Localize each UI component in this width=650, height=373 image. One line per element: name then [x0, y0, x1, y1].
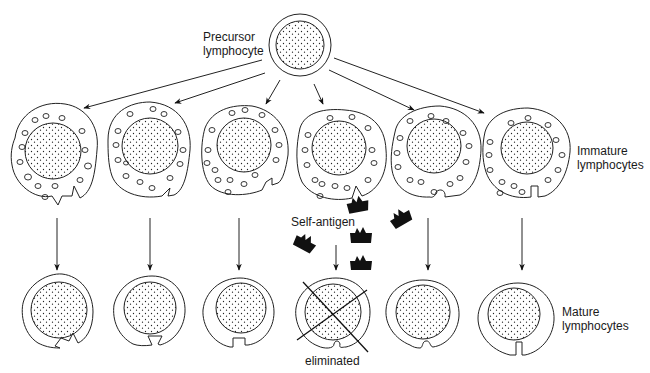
mature-cell-5 — [386, 280, 459, 348]
mature-cell-6 — [478, 283, 554, 355]
self-antigen-2 — [387, 205, 414, 230]
label-precursor-lymphocyte: Precursor lymphocyte — [203, 30, 264, 58]
self-antigen-3 — [292, 230, 319, 254]
immature-cell-1 — [11, 103, 97, 205]
self-antigen-5 — [350, 255, 372, 270]
maturation-arrows — [57, 218, 522, 270]
precursor-lymphocyte — [269, 14, 331, 76]
mature-cell-1 — [22, 274, 93, 348]
label-eliminated: eliminated — [305, 354, 360, 368]
self-antigen-4 — [350, 227, 372, 243]
mature-cell-4-eliminated — [296, 278, 370, 352]
immature-cell-4-self-reactive — [297, 110, 386, 200]
immature-cell-6 — [483, 108, 570, 198]
mature-cell-3 — [203, 278, 274, 347]
mature-cell-2 — [114, 276, 185, 346]
label-mature-lymphocytes: Mature lymphocytes — [562, 305, 629, 333]
diagram-canvas — [0, 0, 650, 373]
self-antigens — [292, 194, 414, 270]
immature-cell-3 — [202, 106, 288, 195]
label-immature-lymphocytes: Immature lymphocytes — [577, 144, 644, 172]
immature-cell-2 — [108, 102, 190, 197]
immature-cell-5 — [391, 106, 481, 197]
label-self-antigen: Self-antigen — [291, 215, 355, 229]
